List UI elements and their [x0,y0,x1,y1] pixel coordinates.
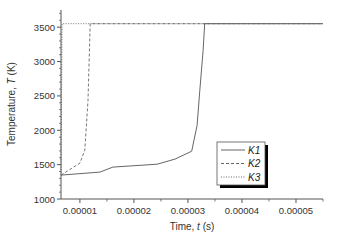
legend-label-k3: K3 [248,172,261,183]
legend-label-k1: K1 [248,145,260,156]
series-k1 [61,24,323,175]
plot-area [61,24,323,175]
x-tick-label: 0.00003 [171,205,205,216]
y-axis-title: Temperature, T (K) [6,62,17,146]
temperature-time-chart: 0.000010.000020.000030.000040.0000510001… [0,0,338,243]
y-tick-label: 3000 [34,56,55,67]
x-tick-label: 0.00005 [279,205,313,216]
y-tick-label: 1500 [34,159,55,170]
y-tick-label: 2500 [34,90,55,101]
x-tick-label: 0.00004 [225,205,259,216]
x-tick-label: 0.00002 [117,205,151,216]
legend: K1K2K3 [217,142,268,188]
axes: 0.000010.000020.000030.000040.0000510001… [34,10,323,216]
x-axis-title: Time, t (s) [170,221,215,232]
series-k3 [61,24,323,175]
x-tick-label: 0.00001 [63,205,97,216]
legend-label-k2: K2 [248,158,261,169]
y-tick-label: 2000 [34,125,55,136]
series-k2 [61,24,323,175]
y-tick-label: 1000 [34,194,55,205]
y-tick-label: 3500 [34,22,55,33]
